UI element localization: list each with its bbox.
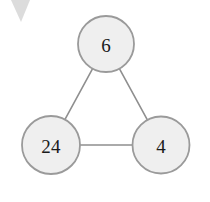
node-top[interactable]: 6 xyxy=(78,16,134,72)
node-bottom-left-label: 24 xyxy=(41,136,61,157)
edge-top-to-bottom-right xyxy=(119,69,147,120)
diagram-canvas: 6 24 4 xyxy=(0,0,210,202)
node-bottom-right[interactable]: 4 xyxy=(133,117,190,174)
node-top-label: 6 xyxy=(101,35,111,56)
node-bottom-left[interactable]: 24 xyxy=(22,116,80,174)
node-bottom-right-label: 4 xyxy=(156,136,166,157)
number-bond-diagram: 6 24 4 xyxy=(0,0,210,202)
corner-triangle-artifact xyxy=(11,0,30,22)
edge-top-to-bottom-left xyxy=(65,69,93,120)
